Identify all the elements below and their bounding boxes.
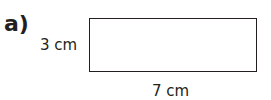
rectangle-shape <box>89 18 257 72</box>
height-label: 3 cm <box>40 36 77 54</box>
width-label: 7 cm <box>152 82 189 100</box>
part-label: a) <box>4 11 29 36</box>
